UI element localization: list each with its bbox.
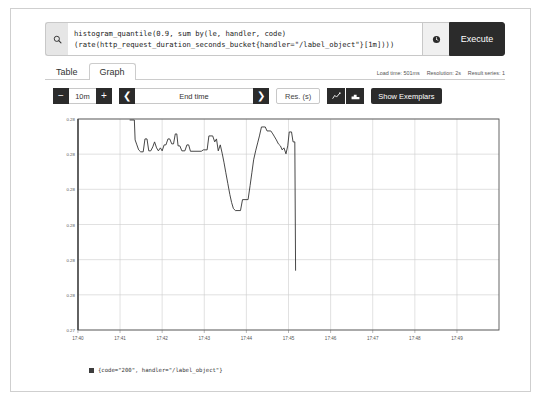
result-tabs: Table Graph Load time: 501ms Resolution:… <box>45 61 505 80</box>
x-tick-label: 17:42 <box>156 336 168 341</box>
range-decrease-button[interactable]: − <box>53 88 69 104</box>
range-increase-button[interactable]: + <box>96 88 112 104</box>
x-tick-label: 17:41 <box>114 336 126 341</box>
query-history-button[interactable] <box>422 22 449 56</box>
stat-result-series: Result series: 1 <box>468 70 505 76</box>
legend-swatch <box>89 368 94 373</box>
stat-load-time: Load time: 501ms <box>377 70 420 76</box>
end-time-next-button[interactable]: ❯ <box>253 88 269 104</box>
resolution-input[interactable]: Res. (s) <box>276 88 320 104</box>
graph-svg: 0.280.280.280.280.280.280.27 17:4017:411… <box>53 113 503 358</box>
y-tick-label: 0.27 <box>66 328 75 333</box>
graph-plot[interactable]: 0.280.280.280.280.280.280.27 17:4017:411… <box>53 113 503 358</box>
tab-graph[interactable]: Graph <box>89 63 136 80</box>
x-tick-label: 17:43 <box>199 336 211 341</box>
end-time-input[interactable]: End time <box>135 88 253 104</box>
y-tick-label: 0.28 <box>66 223 75 228</box>
chart-type-group <box>327 88 364 104</box>
query-line-1: histogram_quantile(0.9, sum by(le, handl… <box>74 29 286 38</box>
line-chart-button[interactable] <box>327 88 345 104</box>
x-tick-label: 17:46 <box>325 336 337 341</box>
tab-table[interactable]: Table <box>45 63 89 80</box>
x-tick-label: 17:44 <box>241 336 253 341</box>
y-tick-label: 0.28 <box>66 187 75 192</box>
x-tick-label: 17:48 <box>409 336 421 341</box>
x-tick-label: 17:47 <box>367 336 379 341</box>
y-axis-ticks: 0.280.280.280.280.280.280.27 <box>66 117 75 333</box>
x-tick-label: 17:45 <box>283 336 295 341</box>
series-line <box>130 120 296 270</box>
legend-label[interactable]: {code="200", handler="/label_object"} <box>98 367 223 373</box>
execute-button[interactable]: Execute <box>449 22 505 56</box>
y-tick-label: 0.28 <box>66 152 75 157</box>
stacked-chart-button[interactable] <box>346 88 364 104</box>
query-line-2: (rate(http_request_duration_seconds_buck… <box>74 40 394 49</box>
stat-resolution: Resolution: 2s <box>427 70 461 76</box>
y-tick-label: 0.28 <box>66 117 75 122</box>
x-axis-ticks: 17:4017:4117:4217:4317:4417:4517:4617:47… <box>72 336 463 341</box>
search-icon <box>53 35 62 44</box>
app-window: histogram_quantile(0.9, sum by(le, handl… <box>10 8 531 392</box>
series-layer <box>130 120 296 270</box>
show-exemplars-button[interactable]: Show Exemplars <box>371 88 441 104</box>
end-time-prev-button[interactable]: ❮ <box>119 88 135 104</box>
range-stepper: − 10m + <box>53 88 112 104</box>
end-time-control: ❮ End time ❯ <box>119 88 269 104</box>
clock-history-icon <box>432 35 441 44</box>
gridlines <box>78 119 499 333</box>
y-tick-label: 0.28 <box>66 293 75 298</box>
x-tick-label: 17:49 <box>451 336 463 341</box>
y-tick-label: 0.28 <box>66 258 75 263</box>
graph-controls-toolbar: − 10m + ❮ End time ❯ Res. (s) Show Exemp <box>53 88 442 104</box>
range-value[interactable]: 10m <box>69 88 96 104</box>
line-chart-icon <box>332 92 341 101</box>
query-bar: histogram_quantile(0.9, sum by(le, handl… <box>45 22 505 56</box>
query-expression-input[interactable]: histogram_quantile(0.9, sum by(le, handl… <box>68 22 422 56</box>
x-tick-label: 17:40 <box>72 336 84 341</box>
search-button[interactable] <box>45 22 68 56</box>
graph-legend: {code="200", handler="/label_object"} <box>89 367 223 373</box>
query-stats: Load time: 501ms Resolution: 2s Result s… <box>377 70 505 76</box>
stacked-chart-icon <box>351 92 360 101</box>
